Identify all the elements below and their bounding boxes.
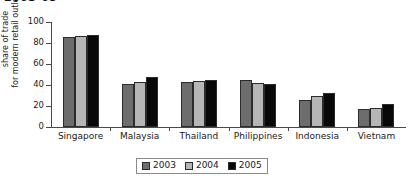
- bar-philippines-2003: [240, 80, 252, 127]
- legend-swatch-icon: [185, 162, 193, 170]
- bar-group: Singapore: [51, 22, 110, 127]
- legend-item-2003[interactable]: 2003: [142, 160, 176, 171]
- bar-group-bars: [347, 22, 406, 127]
- bar-group-bars: [288, 22, 347, 127]
- bar-group: Indonesia: [288, 22, 347, 127]
- chart-legend: 200320042005: [136, 158, 268, 174]
- y-tick: 0: [46, 127, 51, 128]
- bar-malaysia-2005: [146, 77, 158, 127]
- y-tick-label: 40: [33, 79, 44, 90]
- bar-malaysia-2003: [122, 84, 134, 127]
- bar-vietnam-2003: [358, 109, 370, 127]
- bar-malaysia-2004: [134, 82, 146, 127]
- bar-thailand-2004: [193, 81, 205, 127]
- bar-singapore-2003: [63, 37, 75, 127]
- bar-vietnam-2004: [370, 108, 382, 127]
- bar-indonesia-2005: [323, 93, 335, 127]
- legend-label: 2004: [196, 160, 219, 171]
- legend-swatch-icon: [228, 162, 236, 170]
- bar-singapore-2005: [87, 35, 99, 127]
- plot-area: 020406080100 SingaporeMalaysiaThailandPh…: [51, 22, 406, 127]
- legend-item-2005[interactable]: 2005: [228, 160, 262, 171]
- bar-philippines-2005: [264, 84, 276, 127]
- bar-group-bars: [229, 22, 288, 127]
- legend-label: 2005: [239, 160, 262, 171]
- bar-group: Thailand: [169, 22, 228, 127]
- bar-group-bars: [110, 22, 169, 127]
- bar-indonesia-2004: [311, 96, 323, 128]
- legend-label: 2003: [153, 160, 176, 171]
- y-tick-label: 80: [33, 37, 44, 48]
- x-category-label: Vietnam: [316, 130, 413, 142]
- legend-swatch-icon: [142, 162, 150, 170]
- y-axis-label: share of trade for modern retail outlets: [1, 0, 27, 93]
- y-tick-label: 100: [28, 16, 44, 27]
- bar-group: Philippines: [229, 22, 288, 127]
- bar-thailand-2003: [181, 82, 193, 127]
- bar-thailand-2005: [205, 80, 217, 127]
- bar-group: Malaysia: [110, 22, 169, 127]
- y-axis-label-line-1: share of trade: [1, 0, 11, 93]
- bar-indonesia-2003: [299, 100, 311, 127]
- y-tick-label: 20: [33, 100, 44, 111]
- y-tick-label: 60: [33, 58, 44, 69]
- bar-chart-figure: 2003-05 share of trade for modern retail…: [0, 0, 413, 179]
- bar-group-bars: [51, 22, 110, 127]
- bar-philippines-2004: [252, 83, 264, 127]
- bar-group: Vietnam: [347, 22, 406, 127]
- legend-item-2004[interactable]: 2004: [185, 160, 219, 171]
- bar-group-bars: [169, 22, 228, 127]
- y-axis-label-line-2: for modern retail outlets: [11, 0, 21, 93]
- bar-vietnam-2005: [382, 104, 394, 127]
- bar-singapore-2004: [75, 36, 87, 127]
